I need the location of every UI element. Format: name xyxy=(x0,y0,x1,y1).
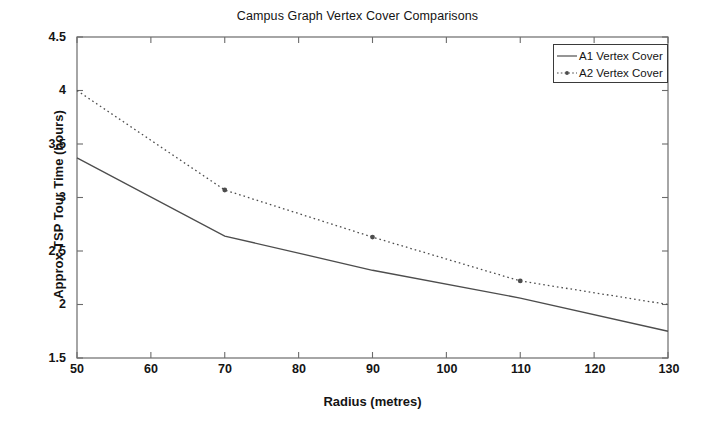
legend-entry-a1: A1 Vertex Cover xyxy=(554,47,669,65)
legend-label-a1: A1 Vertex Cover xyxy=(579,50,663,62)
dotted-line-dot-sample xyxy=(557,67,577,79)
legend-label-a2: A2 Vertex Cover xyxy=(579,67,663,79)
series-line-a2 xyxy=(77,91,668,305)
data-point-marker xyxy=(518,279,523,284)
axis-frame xyxy=(77,37,668,358)
legend-entry-a2: A2 Vertex Cover xyxy=(554,64,669,82)
series-line-a1 xyxy=(77,158,668,331)
tick-marks xyxy=(77,37,668,358)
solid-line-sample xyxy=(557,50,577,62)
data-point-marker xyxy=(370,235,375,240)
chart-figure: Campus Graph Vertex Cover Comparisons Ap… xyxy=(0,0,715,431)
series-layer xyxy=(77,91,668,332)
data-point-marker xyxy=(222,188,227,193)
legend: A1 Vertex Cover A2 Vertex Cover xyxy=(553,44,668,83)
